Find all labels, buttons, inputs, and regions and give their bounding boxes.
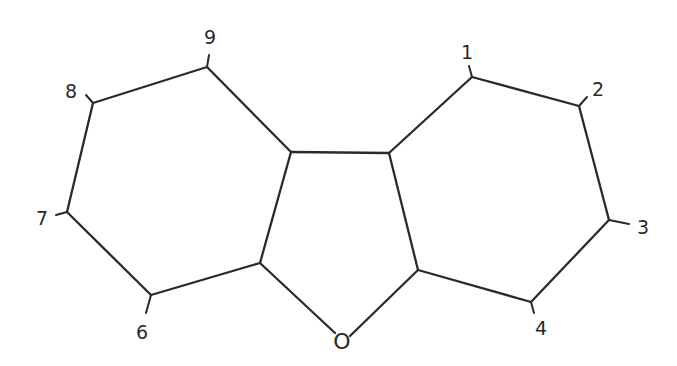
bond-c5a-oxygen [260,263,335,333]
tick-6 [146,295,151,313]
tick-2 [579,97,587,106]
label-ticks [56,55,629,313]
dibenzofuran-structure: 1 2 3 4 6 7 8 9 O [0,0,677,366]
tick-1 [469,66,472,77]
label-position-1: 1 [461,41,473,63]
label-position-8: 8 [65,80,77,102]
bond-c8-c7 [67,103,93,212]
label-position-9: 9 [204,26,216,48]
bond-c9-c8 [93,67,207,103]
bond-oxygen-c4a [350,270,418,336]
label-position-4: 4 [535,317,547,339]
bond-c1-c2 [472,77,579,106]
bond-c9a-c9b [291,152,389,153]
left-benzene-ring [67,67,291,295]
oxygen-atom-label: O [333,329,350,354]
label-position-7: 7 [36,207,48,229]
bond-c9b-c1 [389,77,472,153]
label-position-2: 2 [592,78,604,100]
tick-3 [609,220,629,224]
tick-4 [531,302,534,313]
label-position-6: 6 [136,321,148,343]
right-benzene-ring [389,77,609,302]
bond-c4-c4a [418,270,531,302]
bond-c5a-c9a [260,152,291,263]
bond-c3-c4 [531,220,609,302]
tick-8 [86,95,93,103]
bond-c9a-c9 [207,67,291,152]
label-position-3: 3 [637,216,649,238]
position-labels: 1 2 3 4 6 7 8 9 [36,26,649,343]
bond-c2-c3 [579,106,609,220]
bond-c4a-c9b [389,153,418,270]
tick-7 [56,212,67,215]
bond-c6-c5a [151,263,260,295]
bond-c7-c6 [67,212,151,295]
tick-9 [207,55,209,67]
